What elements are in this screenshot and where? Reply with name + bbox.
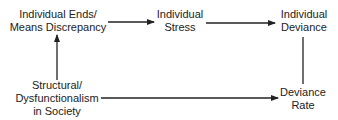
node-label-line: Stress bbox=[155, 21, 205, 34]
node-label-line: Individual Ends/ bbox=[8, 8, 108, 21]
node-label-line: Deviance bbox=[280, 86, 326, 99]
node-label-line: in Society bbox=[14, 105, 100, 118]
node-label-line: Individual bbox=[276, 8, 332, 21]
node-individual-stress: Individual Stress bbox=[155, 8, 205, 34]
deviance-flow-diagram: Individual Ends/ Means Discrepancy Indiv… bbox=[0, 0, 338, 120]
node-label-line: Structural/ bbox=[14, 79, 100, 92]
node-individual-ends-means-discrepancy: Individual Ends/ Means Discrepancy bbox=[8, 8, 108, 34]
node-label-line: Rate bbox=[280, 99, 326, 112]
node-label-line: Dysfunctionalism bbox=[14, 92, 100, 105]
node-structural-dysfunctionalism: Structural/ Dysfunctionalism in Society bbox=[14, 79, 100, 118]
node-individual-deviance: Individual Deviance bbox=[276, 8, 332, 34]
node-label-line: Means Discrepancy bbox=[8, 21, 108, 34]
node-deviance-rate: Deviance Rate bbox=[280, 86, 326, 112]
node-label-line: Deviance bbox=[276, 21, 332, 34]
node-label-line: Individual bbox=[155, 8, 205, 21]
